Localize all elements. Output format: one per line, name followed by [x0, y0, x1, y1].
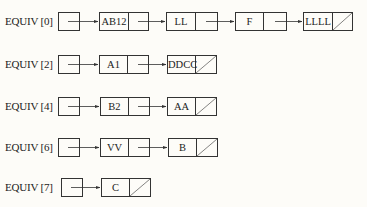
node-value: AB12: [100, 13, 129, 30]
list-node: C: [101, 178, 151, 197]
head-pointer-box: [61, 178, 83, 197]
list-node: LLLL: [303, 12, 353, 31]
list-node: F: [235, 12, 287, 31]
row-label: EQUIV [0]: [5, 15, 53, 27]
null-pointer: [196, 56, 216, 73]
null-slash-icon: [333, 13, 352, 30]
node-pointer: [264, 13, 286, 30]
node-value: B2: [101, 98, 129, 115]
head-pointer-box: [58, 55, 80, 74]
node-value: AA: [168, 98, 196, 115]
node-value: F: [236, 13, 264, 30]
equiv-row-0: EQUIV [0] AB12 LL F LLLL: [0, 12, 367, 32]
node-pointer: [129, 139, 149, 156]
head-pointer-box: [58, 12, 80, 31]
null-pointer: [196, 98, 216, 115]
node-pointer: [129, 98, 149, 115]
list-node: B: [168, 138, 218, 157]
node-value: DDCC: [168, 56, 196, 73]
null-pointer: [197, 139, 217, 156]
null-slash-icon: [196, 56, 216, 73]
null-slash-icon: [130, 179, 150, 196]
equiv-row-4: EQUIV [4] B2 AA: [0, 97, 367, 117]
equiv-row-2: EQUIV [2] A1 DDCC: [0, 55, 367, 75]
row-label: EQUIV [2]: [5, 58, 53, 70]
list-node: A1: [99, 55, 149, 74]
node-pointer: [196, 13, 217, 30]
list-node: DDCC: [167, 55, 217, 74]
head-pointer-box: [58, 138, 80, 157]
node-value: B: [169, 139, 197, 156]
equiv-row-6: EQUIV [6] VV B: [0, 138, 367, 158]
list-node: B2: [100, 97, 150, 116]
equiv-row-7: EQUIV [7] C: [0, 178, 367, 198]
node-value: VV: [101, 139, 129, 156]
node-pointer: [129, 13, 148, 30]
head-pointer-box: [58, 97, 80, 116]
row-label: EQUIV [6]: [5, 141, 53, 153]
node-value: LLLL: [304, 13, 333, 30]
null-slash-icon: [196, 98, 216, 115]
node-pointer: [128, 56, 148, 73]
row-label: EQUIV [7]: [5, 181, 53, 193]
null-slash-icon: [197, 139, 217, 156]
node-value: A1: [100, 56, 128, 73]
null-pointer: [333, 13, 352, 30]
node-value: C: [102, 179, 130, 196]
list-node: LL: [166, 12, 218, 31]
null-pointer: [130, 179, 150, 196]
list-node: VV: [100, 138, 150, 157]
node-value: LL: [167, 13, 196, 30]
list-node: AA: [167, 97, 217, 116]
row-label: EQUIV [4]: [5, 100, 53, 112]
list-node: AB12: [99, 12, 149, 31]
